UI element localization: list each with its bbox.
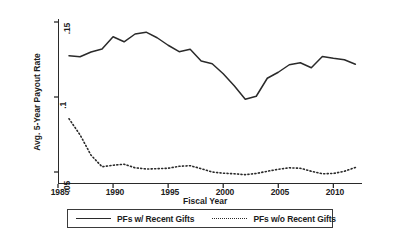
legend-label-dotted: PFs w/o Recent Gifts (253, 214, 336, 224)
chart-legend: PFs w/ Recent Gifts PFs w/o Recent Gifts (67, 209, 333, 228)
legend-label-solid: PFs w/ Recent Gifts (117, 214, 194, 224)
legend-key-dotted-line-icon (212, 218, 247, 219)
chart-screenshot: .15 .1 .05 Avg. 5-Year Payout Rate 1985 … (0, 0, 400, 241)
legend-key-solid-line-icon (76, 218, 111, 219)
x-tick-label-1990: 1990 (99, 187, 131, 197)
legend-entry-solid: PFs w/ Recent Gifts (76, 210, 194, 227)
figure: .15 .1 .05 Avg. 5-Year Payout Rate 1985 … (0, 0, 400, 241)
y-tick-label-01: .1 (58, 102, 68, 109)
y-axis-title: Avg. 5-Year Payout Rate (32, 47, 42, 157)
legend-entry-dotted: PFs w/o Recent Gifts (212, 210, 336, 227)
x-tick-label-2005: 2005 (264, 187, 296, 197)
x-axis-title: Fiscal Year (183, 196, 227, 206)
y-tick-label-015: .15 (62, 23, 72, 34)
x-tick-label-2010: 2010 (319, 187, 351, 197)
x-tick-label-1985: 1985 (44, 187, 76, 197)
plot-area (58, 19, 362, 184)
x-tick-label-1995: 1995 (154, 187, 186, 197)
